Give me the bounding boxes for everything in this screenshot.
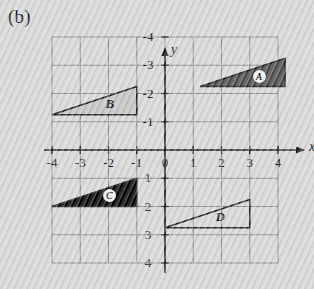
shape-label-b: B [103, 97, 117, 110]
y-axis-arrowhead [161, 47, 168, 56]
x-axis-name: x [309, 139, 314, 155]
y-tick-label-2: -2 [137, 86, 159, 102]
x-tick-label-2: 2 [211, 155, 233, 171]
x-tick-label-0: 0 [154, 155, 176, 171]
triangle-d [165, 199, 250, 227]
y-tick-label-4: -4 [137, 29, 159, 45]
x-tick-label--2: -2 [98, 155, 120, 171]
x-tick-label-3: 3 [239, 155, 261, 171]
x-tick-label--1: -1 [126, 155, 148, 171]
x-tick-label-1: 1 [182, 155, 204, 171]
y-tick-label-1: -1 [137, 114, 159, 130]
x-tick-label--3: -3 [69, 155, 91, 171]
y-tick-label--4: 4 [137, 255, 159, 271]
triangle-b [52, 86, 137, 114]
shape-label-d: D [213, 210, 227, 223]
y-tick-label--2: 2 [137, 199, 159, 215]
y-tick-label-3: -3 [137, 57, 159, 73]
panel-label: (b) [8, 6, 31, 28]
shape-label-a: A [253, 70, 266, 83]
y-tick-label--1: 1 [137, 170, 159, 186]
x-tick-label--4: -4 [41, 155, 63, 171]
triangle-c [52, 178, 137, 206]
y-axis-name: y [171, 42, 177, 58]
x-axis-arrowhead [296, 146, 305, 153]
triangle-a [200, 58, 285, 86]
shape-label-c: C [103, 189, 116, 202]
y-tick-label--3: 3 [137, 227, 159, 243]
x-tick-label-4: 4 [267, 155, 289, 171]
